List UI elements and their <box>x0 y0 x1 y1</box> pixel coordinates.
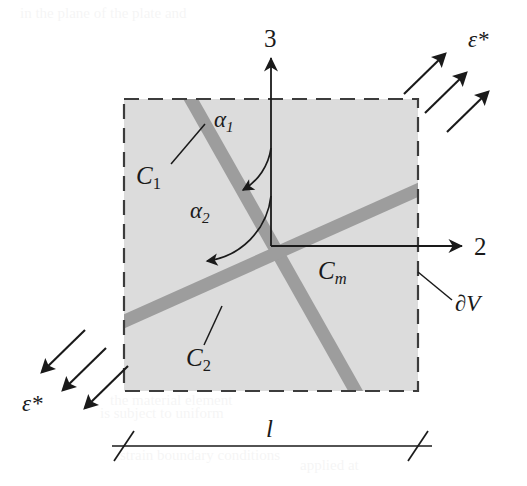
svg-text:is subject to uniform: is subject to uniform <box>100 405 224 421</box>
boundary-label: ∂V <box>455 292 480 315</box>
crack-label-c1-letter: C <box>136 162 153 189</box>
alpha1-symbol: α <box>214 107 226 132</box>
crack-label-c2-letter: C <box>186 344 203 371</box>
matrix-label-cm: Cm <box>318 258 347 287</box>
crack-label-c2: C2 <box>186 345 211 374</box>
matrix-label-cm-subscript: m <box>335 269 347 288</box>
matrix-label-cm-letter: C <box>318 257 335 284</box>
crack-label-c2-subscript: 2 <box>203 356 211 375</box>
alpha2-symbol: α <box>190 198 202 223</box>
rve-diagram: in the plane of the plate and microcrack… <box>0 0 527 486</box>
alpha1-subscript: 1 <box>226 118 234 135</box>
dimension-label-l: l <box>266 416 273 441</box>
alpha2-subscript: 2 <box>202 209 210 226</box>
svg-text:strain boundary conditions: strain boundary conditions <box>120 447 280 463</box>
axis-3-label: 3 <box>264 26 277 51</box>
svg-text:in the plane of the plate and: in the plane of the plate and <box>20 5 187 21</box>
axis-2-label: 2 <box>474 234 487 259</box>
alpha1-label: α1 <box>214 108 234 134</box>
epsilon-star-label-bottom-left: ε* <box>22 392 43 415</box>
crack-label-c1: C1 <box>136 163 161 192</box>
alpha2-label: α2 <box>190 199 210 225</box>
crack-label-c1-subscript: 1 <box>153 174 161 193</box>
svg-text:applied at: applied at <box>300 457 360 473</box>
epsilon-star-label-top-right: ε* <box>468 28 489 51</box>
